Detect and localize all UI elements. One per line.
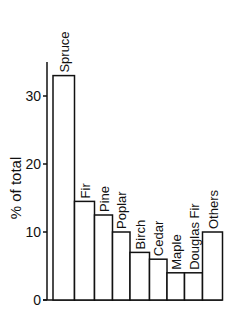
bar-chart: 0102030 SpruceFirPinePoplarBirchCedarMap…	[0, 0, 238, 322]
category-label: Pine	[97, 186, 112, 212]
category-label: Douglas Fir	[187, 203, 202, 270]
bar-others	[203, 232, 223, 300]
bar-pine	[95, 215, 113, 300]
y-axis-title: % of total	[7, 157, 24, 220]
category-label: Fir	[78, 183, 93, 199]
category-label: Cedar	[151, 220, 166, 256]
y-tick-label: 10	[25, 224, 41, 240]
bar-fir	[75, 201, 95, 300]
bar-maple	[167, 273, 185, 300]
bar-poplar	[113, 232, 131, 300]
category-label: Spruce	[57, 31, 72, 72]
y-tick-label: 20	[25, 156, 41, 172]
y-tick-label: 30	[25, 88, 41, 104]
category-label: Maple	[169, 234, 184, 269]
category-label: Poplar	[114, 191, 129, 229]
bar-birch	[130, 252, 150, 300]
category-label: Others	[206, 189, 221, 229]
bar-spruce	[53, 76, 75, 300]
y-tick-label: 0	[33, 292, 41, 308]
bar-cedar	[150, 259, 168, 300]
category-label: Birch	[133, 220, 148, 250]
bar-douglas-fir	[185, 273, 203, 300]
